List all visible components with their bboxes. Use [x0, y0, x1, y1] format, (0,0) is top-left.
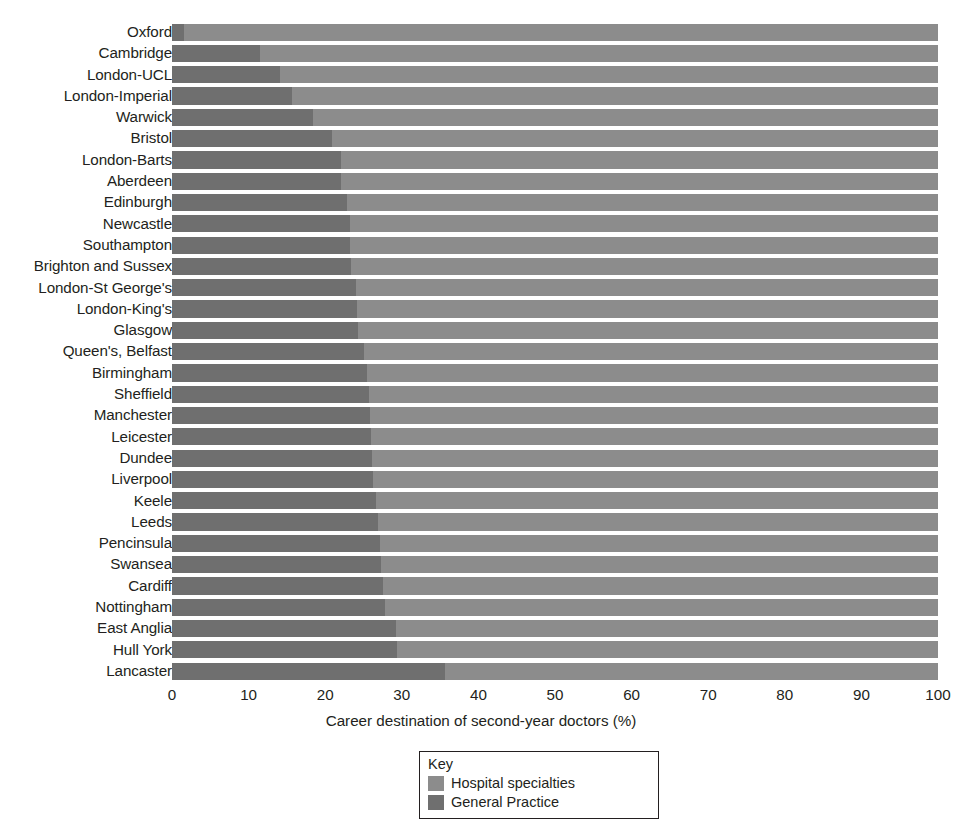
category-label: London-King's: [0, 299, 172, 320]
chart-row: Pencinsula: [0, 533, 962, 554]
stacked-bar: [172, 45, 938, 62]
chart-row: London-UCL: [0, 65, 962, 86]
category-label: London-Barts: [0, 150, 172, 171]
chart-row: Manchester: [0, 405, 962, 426]
bar-segment-hospital-specialties: [184, 24, 938, 41]
stacked-bar: [172, 24, 938, 41]
category-label: London-UCL: [0, 65, 172, 86]
bar-segment-general-practice: [172, 535, 380, 552]
chart-row: Liverpool: [0, 469, 962, 490]
bar-segment-general-practice: [172, 300, 357, 317]
category-label: Edinburgh: [0, 192, 172, 213]
chart-row: Aberdeen: [0, 171, 962, 192]
bar-segment-hospital-specialties: [358, 322, 938, 339]
bar-segment-hospital-specialties: [292, 87, 938, 104]
bar-segment-hospital-specialties: [381, 556, 938, 573]
category-label: Manchester: [0, 405, 172, 426]
stacked-bar: [172, 130, 938, 147]
category-label: Queen's, Belfast: [0, 341, 172, 362]
x-axis-tick-label: 40: [448, 686, 508, 703]
bar-segment-hospital-specialties: [397, 641, 938, 658]
chart-row: Hull York: [0, 640, 962, 661]
bar-segment-general-practice: [172, 450, 372, 467]
bar-segment-general-practice: [172, 130, 332, 147]
category-label: Warwick: [0, 107, 172, 128]
bar-segment-general-practice: [172, 407, 370, 424]
stacked-bar: [172, 194, 938, 211]
legend-label-general-practice: General Practice: [451, 794, 559, 811]
bar-segment-hospital-specialties: [280, 66, 938, 83]
legend-label-hospital-specialties: Hospital specialties: [451, 775, 575, 792]
category-label: Dundee: [0, 448, 172, 469]
bar-segment-hospital-specialties: [356, 279, 938, 296]
chart-row: Edinburgh: [0, 192, 962, 213]
category-label: Oxford: [0, 22, 172, 43]
stacked-bar: [172, 109, 938, 126]
chart-row: Southampton: [0, 235, 962, 256]
bar-segment-general-practice: [172, 237, 350, 254]
chart-row: Cambridge: [0, 43, 962, 64]
bar-segment-general-practice: [172, 513, 378, 530]
bar-segment-hospital-specialties: [350, 237, 938, 254]
bar-segment-general-practice: [172, 322, 358, 339]
stacked-bar: [172, 300, 938, 317]
category-label: Sheffield: [0, 384, 172, 405]
stacked-bar: [172, 151, 938, 168]
bar-segment-hospital-specialties: [378, 513, 938, 530]
legend-swatch-hospital-specialties: [428, 776, 444, 791]
bar-segment-general-practice: [172, 428, 371, 445]
bar-segment-general-practice: [172, 599, 385, 616]
stacked-bar: [172, 66, 938, 83]
category-label: Bristol: [0, 128, 172, 149]
stacked-bar: [172, 322, 938, 339]
chart-row: East Anglia: [0, 618, 962, 639]
chart-row: Leicester: [0, 427, 962, 448]
chart-row: Cardiff: [0, 576, 962, 597]
x-axis-tick-label: 30: [372, 686, 432, 703]
stacked-bar: [172, 258, 938, 275]
chart-row: Leeds: [0, 512, 962, 533]
stacked-bar: [172, 535, 938, 552]
stacked-bar: [172, 492, 938, 509]
bar-segment-hospital-specialties: [369, 386, 938, 403]
x-axis-tick-label: 20: [295, 686, 355, 703]
bar-segment-hospital-specialties: [341, 173, 938, 190]
bar-segment-hospital-specialties: [341, 151, 938, 168]
chart-row: London-St George's: [0, 278, 962, 299]
bar-segment-hospital-specialties: [313, 109, 938, 126]
bar-segment-general-practice: [172, 279, 356, 296]
chart-row: Sheffield: [0, 384, 962, 405]
stacked-bar: [172, 407, 938, 424]
stacked-bar: [172, 428, 938, 445]
bar-segment-hospital-specialties: [332, 130, 938, 147]
stacked-bar: [172, 471, 938, 488]
stacked-bar: [172, 386, 938, 403]
legend-item-hospital-specialties: Hospital specialties: [428, 774, 652, 793]
category-label: Pencinsula: [0, 533, 172, 554]
category-label: Leeds: [0, 512, 172, 533]
bar-segment-hospital-specialties: [372, 450, 938, 467]
stacked-bar: [172, 556, 938, 573]
stacked-bar: [172, 513, 938, 530]
category-label: Hull York: [0, 640, 172, 661]
category-label: Cardiff: [0, 576, 172, 597]
bar-segment-general-practice: [172, 492, 376, 509]
category-label: Brighton and Sussex: [0, 256, 172, 277]
bar-segment-hospital-specialties: [373, 471, 938, 488]
x-axis-tick-label: 100: [908, 686, 962, 703]
chart-row: Swansea: [0, 554, 962, 575]
bar-segment-hospital-specialties: [260, 45, 938, 62]
bar-segment-hospital-specialties: [371, 428, 938, 445]
chart-row: Oxford: [0, 22, 962, 43]
category-label: Southampton: [0, 235, 172, 256]
x-axis-tick-label: 60: [602, 686, 662, 703]
category-label: London-St George's: [0, 278, 172, 299]
category-label: Newcastle: [0, 214, 172, 235]
stacked-bar: [172, 215, 938, 232]
stacked-bar: [172, 279, 938, 296]
category-label: Nottingham: [0, 597, 172, 618]
stacked-bar: [172, 173, 938, 190]
bar-segment-general-practice: [172, 258, 351, 275]
bar-segment-general-practice: [172, 471, 373, 488]
chart-row: Glasgow: [0, 320, 962, 341]
